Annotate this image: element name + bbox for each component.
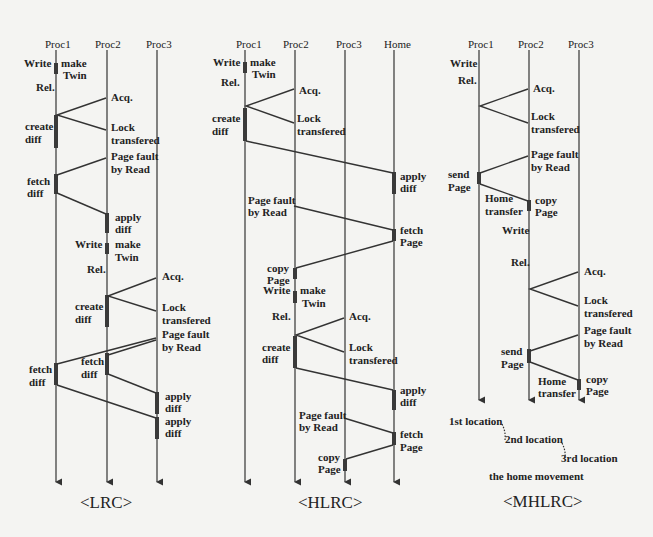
hlrc-page-fault2-label-2: by Read — [299, 421, 338, 433]
lrc-apply-diff-label-2: diff — [115, 223, 132, 235]
mhlrc-page-fault2-label: Page fault — [584, 324, 632, 336]
lrc-apply-diff-label: apply — [115, 211, 142, 223]
lrc-fetch-diff-bar — [54, 174, 58, 194]
mhlrc-page-fault-label-2: by Read — [531, 161, 570, 173]
mhlrc-send-page-label-2: Page — [448, 181, 471, 193]
hlrc-page-transfer2 — [346, 445, 393, 459]
hlrc-make-twin-label-2: Twin — [252, 68, 276, 80]
lrc-fetch-diff2-bar — [105, 353, 109, 375]
lrc-fetch-diff3-bar — [54, 363, 58, 385]
lrc-make-twin-bar — [54, 63, 58, 74]
lrc-release2-label: Rel. — [87, 263, 106, 275]
lrc-apply-diff-bar — [105, 213, 109, 233]
hlrc-create-diff-label: create — [212, 112, 241, 124]
hlrc-make-twin2-label-2: Twin — [302, 297, 326, 309]
lrc-page-fault-label-2: by Read — [111, 163, 150, 175]
mhlrc-acquire2-label: Acq. — [584, 265, 606, 277]
hlrc-home-header: Home — [384, 38, 411, 50]
lrc-acquire-label: Acq. — [111, 91, 133, 103]
hlrc-apply-diff2-label-2: diff — [400, 396, 417, 408]
lrc-panel: Proc1 Proc2 Proc3 Write make Twin Rel. A… — [24, 38, 211, 512]
hlrc-lock-label-2: transfered — [297, 125, 346, 137]
hlrc-copy-page2-label: copy — [318, 451, 341, 463]
mhlrc-copy-page2-label: copy — [586, 373, 609, 385]
hlrc-page-fault-request — [294, 206, 393, 230]
mhlrc-acquire-label: Acq. — [533, 82, 555, 94]
hlrc-page-fault-request2 — [344, 418, 393, 433]
hlrc-apply-diff-label: apply — [400, 170, 427, 182]
mhlrc-write2-label: Write — [502, 224, 529, 236]
mhlrc-lock-label: Lock — [531, 110, 556, 122]
hlrc-lock2-label: Lock — [349, 341, 374, 353]
mhlrc-proc1-header: Proc1 — [468, 38, 494, 50]
hlrc-lock-message2 — [296, 318, 344, 352]
mhlrc-send-page-label: send — [448, 168, 469, 180]
hlrc-diff-to-home — [246, 141, 393, 173]
mhlrc-lock-message2 — [530, 272, 578, 306]
mhlrc-caption: <MHLRC> — [503, 492, 583, 511]
hlrc-make-twin2-label: make — [300, 284, 326, 296]
lrc-release-label: Rel. — [36, 81, 55, 93]
lrc-apply-diff2-label: apply — [165, 390, 192, 402]
lrc-lock2-label-2: transfered — [162, 314, 211, 326]
hlrc-write2-label: Write — [263, 284, 290, 296]
hlrc-acquire-label: Acq. — [299, 84, 321, 96]
mhlrc-copy-page2-label-2: Page — [586, 385, 609, 397]
hlrc-proc3-header: Proc3 — [336, 38, 362, 50]
hlrc-create-diff2-label-2: diff — [262, 353, 279, 365]
hlrc-fetch-page2-bar — [392, 432, 396, 445]
lrc-fetch-diff3-label-2: diff — [29, 376, 46, 388]
hlrc-make-twin2-bar — [293, 291, 297, 303]
lrc-proc3-header: Proc3 — [146, 38, 172, 50]
lrc-make-twin-label-2: Twin — [63, 69, 87, 81]
lrc-lock-message — [57, 98, 106, 130]
mhlrc-lock2-label-2: transfered — [584, 307, 633, 319]
hlrc-caption: <HLRC> — [298, 493, 363, 512]
lrc-create-diff-label-2: diff — [25, 133, 42, 145]
mhlrc-send-page-bar — [477, 172, 481, 184]
hlrc-copy-page-bar — [293, 268, 297, 279]
mhlrc-copy-page-label-2: Page — [535, 206, 558, 218]
hlrc-panel: Proc1 Proc2 Proc3 Home Write make Twin R… — [212, 38, 427, 512]
hlrc-lock2-label-2: transfered — [349, 354, 398, 366]
hlrc-create-diff2-label: create — [262, 341, 291, 353]
hlrc-fetch-page-label: fetch — [400, 224, 423, 236]
mhlrc-page-fault2-label-2: by Read — [584, 337, 623, 349]
lrc-proc2-header: Proc2 — [95, 38, 121, 50]
lrc-make-twin-label: make — [61, 57, 87, 69]
hlrc-page-fault-label: Page fault — [248, 194, 296, 206]
mhlrc-send-page2-label: send — [501, 345, 522, 357]
lrc-create-diff2-label: create — [75, 300, 104, 312]
mhlrc-lock2-label: Lock — [584, 294, 609, 306]
hlrc-create-diff2-bar — [293, 336, 297, 368]
mhlrc-home-movement-title: the home movement — [489, 470, 584, 482]
mhlrc-home-transfer-label-2: transfer — [485, 205, 523, 217]
mhlrc-send-page2-label-2: Page — [501, 358, 524, 370]
lrc-make-twin2-label: make — [115, 238, 141, 250]
consistency-protocol-diagram: Proc1 Proc2 Proc3 Write make Twin Rel. A… — [0, 0, 653, 537]
lrc-apply-diff2-bar — [155, 392, 159, 414]
lrc-create-diff2-bar — [105, 295, 109, 327]
lrc-apply-diff3-label: apply — [165, 415, 192, 427]
mhlrc-release2-label: Rel. — [511, 256, 530, 268]
lrc-page-fault-request — [57, 158, 106, 175]
lrc-page-fault-label: Page fault — [111, 150, 159, 162]
hlrc-fetch-page2-label-2: Page — [400, 441, 423, 453]
lrc-fetch-diff2-label: fetch — [81, 355, 104, 367]
lrc-write2-label: Write — [75, 238, 102, 250]
lrc-make-twin2-bar — [105, 243, 109, 254]
hlrc-release2-label: Rel. — [272, 310, 291, 322]
hlrc-apply-diff2-bar — [392, 390, 396, 410]
hlrc-acquire2-label: Acq. — [349, 310, 371, 322]
hlrc-copy-page2-bar — [343, 459, 347, 471]
hlrc-create-diff-label-2: diff — [212, 125, 229, 137]
mhlrc-second-location-label: 2nd location — [505, 433, 563, 445]
lrc-write-label: Write — [24, 57, 51, 69]
lrc-make-twin2-label-2: Twin — [115, 251, 139, 263]
mhlrc-lock-message — [480, 89, 528, 123]
lrc-acquire2-label: Acq. — [162, 270, 184, 282]
mhlrc-first-location-label: 1st location — [449, 415, 502, 427]
hlrc-proc1-header: Proc1 — [236, 38, 262, 50]
hlrc-apply-diff2-label: apply — [400, 384, 427, 396]
hlrc-create-diff-bar — [243, 108, 247, 141]
